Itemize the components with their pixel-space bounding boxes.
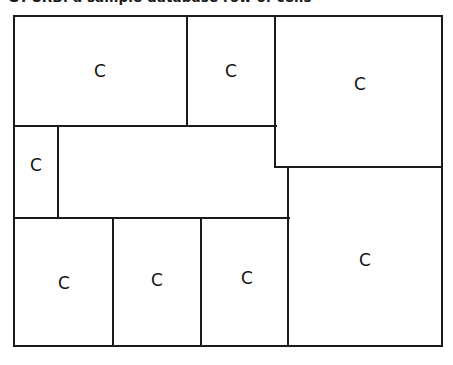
cell-label-6: C xyxy=(58,275,70,292)
figure-screen: GT-SRB: a sample database row of cells C… xyxy=(0,0,453,365)
cell-label-8: C xyxy=(241,270,253,287)
cell-label-3: C xyxy=(354,76,366,93)
cell-label-1: C xyxy=(94,63,106,80)
cell-region-5 xyxy=(58,126,275,218)
cell-label-2: C xyxy=(225,63,237,80)
cell-label-7: C xyxy=(151,272,163,289)
cell-label-4: C xyxy=(30,157,42,174)
partition-diagram: C C C C C C C C xyxy=(0,0,453,365)
cell-label-9: C xyxy=(359,252,371,269)
